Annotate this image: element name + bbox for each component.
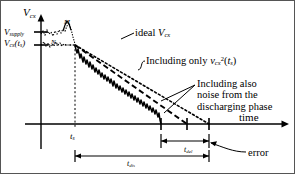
leader-sampling xyxy=(138,61,145,70)
leader-noise-a xyxy=(161,85,195,101)
bracket-label-t-del: tdel xyxy=(184,146,192,155)
annotation-line-3: discharging phase xyxy=(197,101,272,112)
y-axis-arrow xyxy=(38,14,45,22)
annotation-ideal-vcx: ideal Vcx xyxy=(135,27,170,38)
annotation-sampling-noise-only: Including only vcx2(ts) xyxy=(146,55,236,66)
annotation-discharge-noise: Including alsonoise from thedischarging … xyxy=(197,78,272,112)
charge-peak-marker-label: M xyxy=(64,19,70,27)
annotation-leaders xyxy=(121,33,195,113)
y-axis-title: Vcx xyxy=(23,7,36,19)
y-tick-label-v-supply: Vsupply xyxy=(4,28,24,38)
charge-dip-marker-label: N xyxy=(51,39,56,47)
x-axis-title: time xyxy=(239,112,259,124)
figure-container: Vcx time Vsupply Vcx(ts) M N ideal Vcx I… xyxy=(0,0,295,174)
leader-ideal xyxy=(121,33,134,39)
annotation-line-1: Including also xyxy=(197,78,257,89)
bracket-label-t-dis: tdis xyxy=(127,160,135,169)
annotation-line-2: noise from the xyxy=(197,89,258,100)
error-label: error xyxy=(248,147,268,158)
error-pointer xyxy=(210,141,246,152)
leader-noise-b xyxy=(164,85,195,113)
y-tick-label-v-cx-ts: Vcx(ts) xyxy=(4,39,25,49)
x-tick-label-t-s: ts xyxy=(70,132,75,142)
x-axis-arrow xyxy=(282,121,290,128)
